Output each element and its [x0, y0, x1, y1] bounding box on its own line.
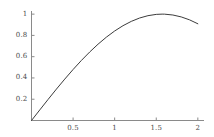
- x-axis-tick-label: 1.5: [136, 125, 176, 132]
- x-axis-tick-label: 2: [178, 125, 214, 132]
- axes-group: [31, 11, 204, 121]
- y-axis-tick-label: 0.6: [0, 53, 28, 60]
- plot-figure: 0.511.52 0.20.40.60.81: [0, 0, 214, 137]
- y-axis-tick-label: 1: [0, 11, 28, 18]
- x-axis-tick-label: 0.5: [53, 125, 93, 132]
- y-axis-tick-label: 0.4: [0, 74, 28, 81]
- data-curve-sin: [32, 14, 198, 120]
- x-axis-tick-label: 1: [95, 125, 135, 132]
- y-axis-tick-label: 0.2: [0, 96, 28, 103]
- plot-canvas: [0, 0, 214, 137]
- y-axis-tick-label: 0.8: [0, 32, 28, 39]
